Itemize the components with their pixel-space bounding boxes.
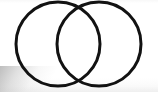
venn-circle-group (16, 2, 141, 86)
screenshot-root: Venn diagram of two overlapping circles (0, 0, 158, 92)
venn-diagram-figure: Venn diagram of two overlapping circles (0, 0, 158, 92)
